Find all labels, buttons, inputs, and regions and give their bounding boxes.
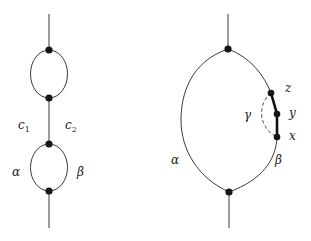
- right-node-x: [274, 134, 281, 141]
- right-node-top: [224, 45, 231, 52]
- label-beta-left: β: [76, 165, 84, 179]
- right-node-y: [274, 111, 281, 118]
- label-alpha-left: α: [12, 165, 20, 179]
- graph-diagram: c1 c2 α β z y x γ α β: [0, 0, 311, 241]
- label-x: x: [289, 129, 296, 143]
- left-node-1: [45, 46, 52, 53]
- label-gamma: γ: [244, 108, 252, 122]
- label-c1: c1: [18, 118, 30, 134]
- label-z: z: [284, 81, 292, 95]
- right-upper-arc: [228, 49, 271, 93]
- label-y: y: [288, 106, 296, 120]
- left-lower-loop: [31, 144, 68, 191]
- right-graph: z y x γ α β: [171, 14, 296, 228]
- right-node-bottom: [225, 188, 232, 195]
- left-node-4: [45, 187, 52, 194]
- right-node-z: [268, 90, 275, 97]
- left-node-2: [45, 94, 52, 101]
- left-node-3: [45, 140, 52, 147]
- label-alpha-right: α: [171, 153, 179, 167]
- right-alpha-arc: [181, 49, 229, 192]
- right-beta-arc: [229, 137, 277, 192]
- label-beta-right: β: [274, 153, 282, 167]
- left-upper-loop: [31, 50, 68, 98]
- label-c2: c2: [65, 118, 77, 134]
- left-graph: c1 c2 α β: [12, 14, 84, 228]
